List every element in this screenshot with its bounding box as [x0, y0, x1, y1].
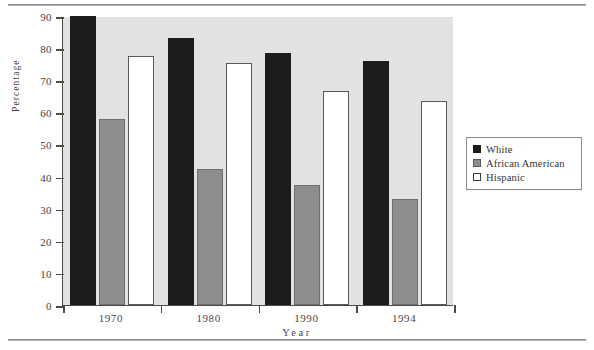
legend-item-african-american[interactable]: African American — [473, 156, 575, 170]
bottom-divider-rule — [8, 339, 586, 341]
bar-hispanic-1970 — [128, 56, 154, 305]
bar-white-1980 — [168, 38, 194, 305]
legend-swatch-white — [473, 145, 481, 153]
y-axis-title: Percentage — [11, 98, 21, 112]
legend-label-hispanic: Hispanic — [486, 172, 525, 183]
bar-african-american-1970 — [99, 119, 125, 305]
x-tick-label-1994: 1994 — [392, 312, 416, 324]
y-tick-mark — [56, 49, 64, 51]
x-tick-mark — [259, 305, 261, 313]
y-tick-label: 70 — [40, 75, 52, 87]
x-tick-mark — [161, 305, 163, 313]
legend-swatch-hispanic — [473, 173, 481, 181]
x-axis-title: Year — [0, 327, 594, 338]
x-tick-mark — [63, 305, 65, 313]
y-tick-label: 50 — [40, 139, 52, 151]
legend-label-african-american: African American — [486, 158, 565, 169]
bar-hispanic-1980 — [226, 63, 252, 305]
y-tick-mark — [56, 81, 64, 83]
y-tick-mark — [56, 210, 64, 212]
y-tick-label: 20 — [40, 236, 52, 248]
x-tick-mark — [454, 305, 456, 313]
y-tick-mark — [56, 113, 64, 115]
y-tick-mark — [56, 17, 64, 19]
bar-hispanic-1990 — [323, 91, 349, 305]
chart-figure: Percentage 0102030405060708090 197019801… — [0, 0, 594, 350]
y-tick-label: 10 — [40, 268, 52, 280]
bar-african-american-1990 — [294, 185, 320, 305]
bar-african-american-1994 — [392, 199, 418, 305]
y-tick-label: 30 — [40, 204, 52, 216]
y-tick-mark — [56, 145, 64, 147]
bar-white-1994 — [363, 61, 389, 305]
chart-legend: White African American Hispanic — [466, 137, 582, 190]
legend-item-white[interactable]: White — [473, 142, 575, 156]
legend-item-hispanic[interactable]: Hispanic — [473, 170, 575, 184]
y-tick-label: 0 — [46, 300, 52, 312]
plot-area: 0102030405060708090 — [62, 17, 453, 306]
y-tick-mark — [56, 274, 64, 276]
x-tick-label-1990: 1990 — [294, 312, 318, 324]
y-tick-label: 80 — [40, 43, 52, 55]
bar-white-1990 — [265, 53, 291, 305]
bar-hispanic-1994 — [421, 101, 447, 305]
y-tick-mark — [56, 178, 64, 180]
y-tick-label: 60 — [40, 107, 52, 119]
y-tick-label: 40 — [40, 172, 52, 184]
x-tick-mark — [356, 305, 358, 313]
y-tick-label: 90 — [40, 11, 52, 23]
legend-swatch-african-american — [473, 159, 481, 167]
bar-african-american-1980 — [197, 169, 223, 305]
legend-label-white: White — [486, 144, 513, 155]
x-tick-label-1980: 1980 — [196, 312, 220, 324]
top-divider-rule — [8, 4, 586, 6]
x-tick-label-1970: 1970 — [99, 312, 123, 324]
y-tick-mark — [56, 242, 64, 244]
bar-white-1970 — [70, 16, 96, 305]
